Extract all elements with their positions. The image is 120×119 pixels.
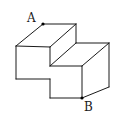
edge-line <box>50 24 76 47</box>
solid-edges <box>16 24 109 98</box>
label-a: A <box>26 11 36 25</box>
edge-line <box>82 87 109 98</box>
edge-line <box>50 43 76 66</box>
point-a <box>41 22 44 25</box>
edge-line <box>16 46 50 47</box>
label-b: B <box>84 100 93 114</box>
stepped-solid-diagram: A B <box>0 0 120 119</box>
edge-line <box>82 43 109 66</box>
edge-line <box>16 24 43 46</box>
